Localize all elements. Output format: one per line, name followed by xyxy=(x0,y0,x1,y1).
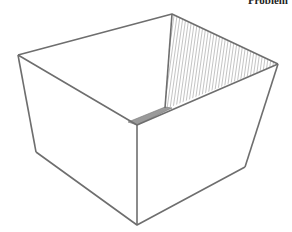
open-box-diagram xyxy=(0,0,292,232)
bottom-edge xyxy=(36,152,245,225)
inner-floor xyxy=(128,107,172,125)
right-edge xyxy=(245,64,278,167)
inner-right-wall xyxy=(165,14,278,108)
left-edge xyxy=(18,55,36,152)
